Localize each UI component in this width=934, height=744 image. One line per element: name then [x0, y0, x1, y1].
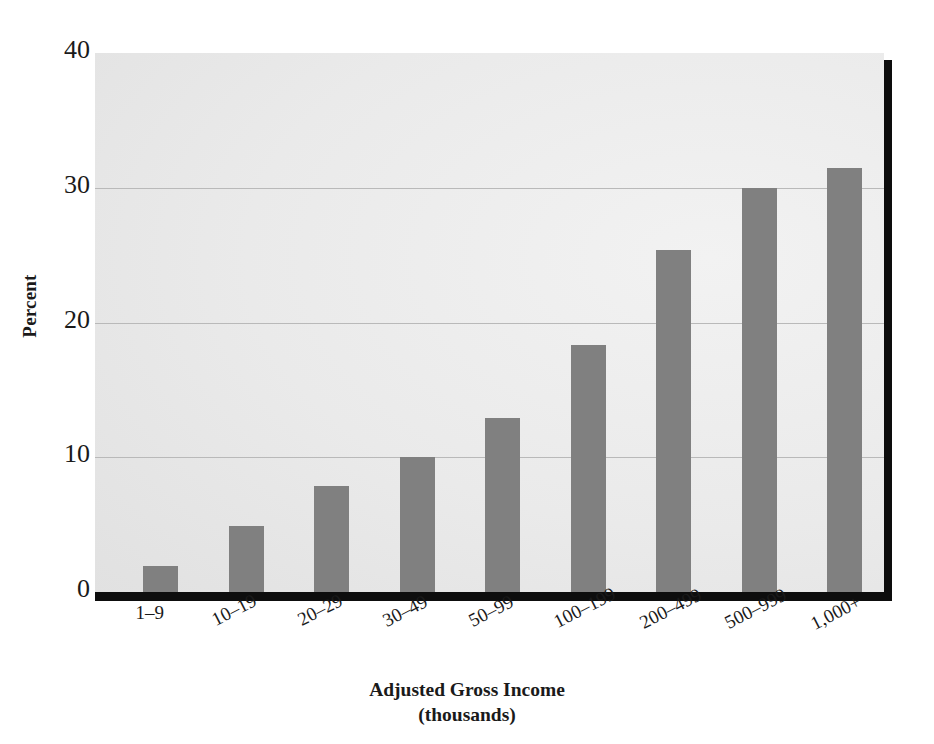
bar	[143, 566, 178, 592]
bar	[400, 457, 435, 592]
x-axis-tick-labels: 1–910–1920–2930–4950–99100–199200–499500…	[0, 600, 934, 680]
bar-chart-figure: Percent 010203040 1–910–1920–2930–4950–9…	[0, 0, 934, 744]
bar	[742, 188, 777, 592]
x-axis-title: Adjusted Gross Income (thousands)	[0, 678, 934, 728]
bar	[827, 168, 862, 592]
bar	[656, 250, 691, 592]
bar	[229, 526, 264, 592]
y-tick-label: 0	[44, 576, 90, 602]
x-axis-title-sub: (thousands)	[0, 703, 934, 728]
x-axis-title-main: Adjusted Gross Income	[369, 679, 565, 700]
right-axis-spine	[884, 60, 892, 598]
bar	[571, 345, 606, 592]
bar	[314, 486, 349, 592]
y-tick-label: 40	[44, 37, 90, 63]
plot-area	[95, 53, 884, 592]
bars-group	[95, 53, 884, 592]
y-tick-label: 30	[44, 172, 90, 198]
y-tick-label: 20	[44, 307, 90, 333]
y-tick-label: 10	[44, 441, 90, 467]
x-tick-label: 1–9	[136, 602, 165, 624]
bar	[485, 418, 520, 592]
